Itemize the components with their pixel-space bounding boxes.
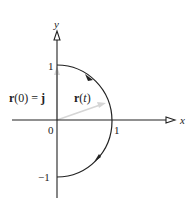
r0-label: r(0) = j — [9, 91, 45, 105]
y-tick-label-neg1: −1 — [38, 171, 50, 183]
rt-label: r(t) — [74, 91, 91, 105]
vector-rt-arrowhead — [97, 102, 106, 108]
y-axis-label: y — [53, 18, 59, 30]
y-tick-label-1: 1 — [48, 60, 54, 72]
x-axis-arrowhead — [166, 117, 175, 123]
parametric-curve-diagram: y x 1 −1 0 1 r(0) = j r(t) — [0, 0, 196, 208]
vector-rt — [57, 105, 100, 120]
x-tick-label-1: 1 — [114, 124, 120, 136]
semicircle-curve — [57, 65, 112, 177]
r0-label-arg: (0) = — [14, 91, 41, 105]
rt-label-close: ) — [87, 91, 91, 105]
x-axis-label: x — [179, 114, 185, 126]
origin-label: 0 — [48, 124, 54, 136]
r0-label-rhs: j — [40, 91, 45, 105]
y-axis-arrowhead — [54, 31, 60, 40]
